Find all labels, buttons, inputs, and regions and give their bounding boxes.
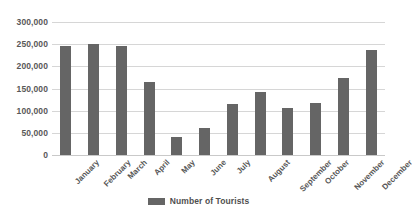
x-label-slot: December — [357, 156, 385, 196]
bar-slot — [135, 22, 163, 155]
bar[interactable] — [60, 46, 71, 155]
bar-slot — [246, 22, 274, 155]
bar[interactable] — [310, 103, 321, 155]
chart-legend: Number of Tourists — [0, 196, 397, 206]
x-label-slot: March — [108, 156, 136, 196]
y-axis-tick-label: 50,000 — [21, 128, 48, 138]
bar[interactable] — [88, 44, 99, 155]
legend-label: Number of Tourists — [170, 196, 250, 206]
bar[interactable] — [171, 137, 182, 155]
bar-slot — [302, 22, 330, 155]
x-label-slot: November — [330, 156, 358, 196]
bar[interactable] — [255, 92, 266, 155]
bar-slot — [80, 22, 108, 155]
x-label-slot: October — [302, 156, 330, 196]
x-label-slot: January — [52, 156, 80, 196]
bar-slot — [108, 22, 136, 155]
y-axis-tick-label: 250,000 — [17, 39, 48, 49]
x-label-slot: June — [191, 156, 219, 196]
bar[interactable] — [282, 108, 293, 155]
y-axis-tick-label: 200,000 — [17, 61, 48, 71]
y-axis-tick-label: 150,000 — [17, 84, 48, 94]
bar-slot — [191, 22, 219, 155]
bar[interactable] — [116, 46, 127, 155]
x-label-slot: February — [80, 156, 108, 196]
bar-slot — [357, 22, 385, 155]
y-axis-tick-label: 0 — [43, 150, 48, 160]
x-label-slot: September — [274, 156, 302, 196]
bar[interactable] — [366, 50, 377, 155]
x-label-slot: July — [219, 156, 247, 196]
bar-slot — [52, 22, 80, 155]
bar-slot — [219, 22, 247, 155]
x-axis-category-labels: JanuaryFebruaryMarchAprilMayJuneJulyAugu… — [52, 156, 385, 196]
bar-slot — [330, 22, 358, 155]
legend-swatch-icon — [148, 198, 165, 205]
bar[interactable] — [227, 104, 238, 155]
bar[interactable] — [144, 82, 155, 155]
bar-series-number-of-tourists — [52, 22, 385, 155]
x-label-slot: April — [135, 156, 163, 196]
bar[interactable] — [338, 78, 349, 155]
y-axis-tick-label: 300,000 — [17, 17, 48, 27]
y-axis-tick-label: 100,000 — [17, 106, 48, 116]
bar-slot — [163, 22, 191, 155]
x-label-slot: May — [163, 156, 191, 196]
plot-area — [52, 22, 385, 155]
x-label-slot: August — [246, 156, 274, 196]
bar-slot — [274, 22, 302, 155]
bar[interactable] — [199, 128, 210, 155]
y-axis-tick-labels: 050,000100,000150,000200,000250,000300,0… — [0, 22, 48, 155]
